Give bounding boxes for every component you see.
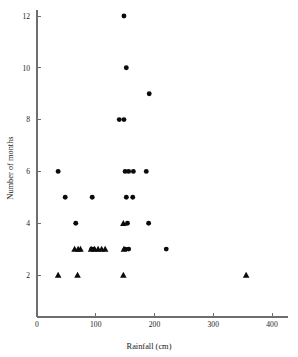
ticks-group	[37, 16, 272, 317]
x-tick-label-0: 0	[35, 320, 39, 329]
y-tick-label-4: 4	[26, 219, 30, 228]
data-point-circle	[124, 195, 129, 200]
x-tick-label-100: 100	[90, 320, 102, 329]
data-point-circle	[122, 14, 127, 19]
axes-group	[37, 10, 288, 317]
data-point-circle	[56, 169, 61, 174]
y-tick-label-6: 6	[26, 167, 30, 176]
data-point-circle	[146, 221, 151, 226]
data-point-circle	[126, 169, 131, 174]
y-axis-title: Number of months	[6, 136, 15, 199]
data-point-triangle	[120, 272, 127, 278]
data-point-circle	[144, 169, 149, 174]
x-tick-label-400: 400	[266, 320, 278, 329]
data-point-circle	[117, 117, 122, 122]
x-axis-title: Rainfall (cm)	[127, 342, 172, 351]
data-point-circle	[164, 247, 169, 252]
plot-canvas: 010020030040024681012 Rainfall (cm) Numb…	[0, 0, 298, 357]
data-point-circle	[131, 169, 136, 174]
x-tick-label-200: 200	[149, 320, 161, 329]
y-tick-label-10: 10	[22, 64, 30, 73]
data-point-triangle	[74, 272, 81, 278]
y-tick-label-8: 8	[26, 115, 30, 124]
x-tick-label-300: 300	[208, 320, 220, 329]
scatter-plot-figure: 010020030040024681012 Rainfall (cm) Numb…	[0, 0, 298, 357]
data-point-circle	[147, 91, 152, 96]
data-point-circle	[126, 247, 131, 252]
data-point-circle	[73, 221, 78, 226]
data-point-triangle	[55, 272, 62, 278]
y-tick-label-12: 12	[22, 12, 30, 21]
data-point-circle	[124, 65, 129, 70]
data-point-circle	[90, 195, 95, 200]
data-points-group	[55, 14, 250, 278]
y-tick-label-2: 2	[26, 271, 30, 280]
data-point-circle	[130, 195, 135, 200]
data-point-circle	[63, 195, 68, 200]
tick-labels-group: 010020030040024681012	[22, 12, 277, 329]
data-point-circle	[122, 117, 127, 122]
data-point-triangle	[243, 272, 250, 278]
